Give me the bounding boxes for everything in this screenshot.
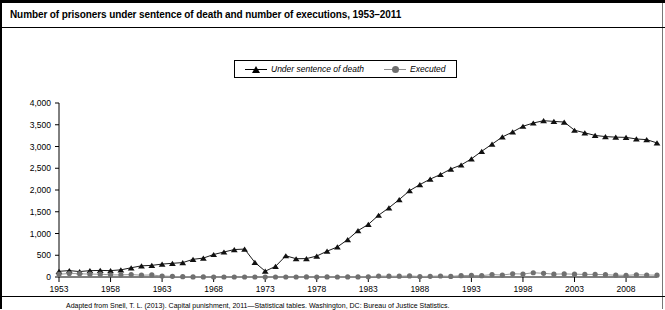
x-axis-tick-label: 1953 [50, 284, 69, 294]
data-point-marker [654, 273, 659, 278]
x-axis-ticks: 1953195819631968197319781983198819931998… [50, 277, 636, 294]
x-axis-tick-label: 1958 [101, 284, 120, 294]
data-point-marker [313, 253, 320, 258]
footnote-text: Adapted from Snell, T. L. (2013). Capita… [2, 301, 665, 310]
data-point-marker [562, 271, 567, 276]
data-point-marker [582, 272, 587, 277]
data-point-marker [644, 272, 649, 277]
data-point-marker [551, 272, 556, 277]
data-point-marker [613, 273, 618, 278]
data-point-marker [56, 272, 61, 277]
y-axis-tick-label: 2,000 [30, 185, 52, 195]
data-point-marker [210, 252, 217, 257]
data-point-marker [304, 274, 309, 279]
x-axis-tick-label: 2008 [617, 284, 636, 294]
axes [59, 103, 657, 277]
data-point-marker [98, 272, 103, 277]
data-point-marker [201, 274, 206, 279]
data-point-marker [386, 274, 391, 279]
data-point-marker [190, 274, 195, 279]
x-axis-tick-label: 1968 [204, 284, 223, 294]
data-point-marker [541, 271, 546, 276]
data-point-marker [251, 260, 258, 265]
data-point-marker [242, 274, 247, 279]
data-point-marker [376, 273, 381, 278]
x-axis-tick-label: 1983 [359, 284, 378, 294]
data-point-marker [180, 274, 185, 279]
data-point-marker [324, 274, 329, 279]
y-axis-tick-label: 0 [46, 272, 51, 282]
data-point-marker [428, 274, 433, 279]
data-point-marker [469, 273, 474, 278]
data-point-marker [314, 274, 319, 279]
data-point-marker [211, 274, 216, 279]
data-point-marker [479, 273, 484, 278]
data-point-marker [282, 253, 289, 258]
data-point-marker [530, 120, 537, 125]
data-point-marker [459, 273, 464, 278]
data-point-marker [232, 274, 237, 279]
x-axis-tick-label: 1963 [153, 284, 172, 294]
data-point-marker [417, 274, 422, 279]
data-point-marker [520, 271, 525, 276]
x-axis-tick-label: 1988 [410, 284, 429, 294]
data-point-marker [252, 274, 257, 279]
data-point-marker [87, 272, 92, 277]
data-point-marker [407, 273, 412, 278]
data-point-marker [366, 274, 371, 279]
data-point-marker [221, 274, 226, 279]
y-axis-tick-label: 3,500 [30, 120, 52, 130]
bottom-rule [2, 296, 665, 297]
x-axis-tick-label: 1973 [256, 284, 275, 294]
data-point-marker [324, 249, 331, 254]
data-point-marker [67, 271, 72, 276]
data-point-marker [572, 272, 577, 277]
x-axis-tick-label: 1978 [307, 284, 326, 294]
y-axis-ticks: 05001,0001,5002,0002,5003,0003,5004,000 [30, 98, 59, 282]
data-point-marker [77, 271, 82, 276]
data-point-marker [294, 274, 299, 279]
data-point-marker [221, 249, 228, 254]
data-point-marker [283, 274, 288, 279]
y-axis-tick-label: 3,000 [30, 142, 52, 152]
data-point-marker [438, 273, 443, 278]
y-axis-tick-label: 500 [37, 250, 51, 260]
data-point-marker [427, 177, 434, 182]
y-axis-tick-label: 4,000 [30, 98, 52, 108]
data-point-marker [273, 274, 278, 279]
plot-area: 05001,0001,5002,0002,5003,0003,5004,000 … [2, 0, 665, 309]
data-point-marker [149, 272, 154, 277]
data-point-marker [355, 274, 360, 279]
x-axis-tick-label: 1998 [514, 284, 533, 294]
data-point-marker [623, 273, 628, 278]
data-point-marker [447, 166, 454, 171]
data-point-marker [581, 130, 588, 135]
data-point-marker [489, 272, 494, 277]
data-point-marker [531, 270, 536, 275]
data-point-marker [129, 272, 134, 277]
data-point-marker [160, 273, 165, 278]
data-series [56, 118, 661, 279]
x-axis-tick-label: 2003 [565, 284, 584, 294]
data-point-marker [139, 273, 144, 278]
data-point-marker [500, 272, 505, 277]
data-point-marker [108, 272, 113, 277]
footnote: Adapted from Snell, T. L. (2013). Capita… [2, 301, 665, 310]
x-axis-tick-label: 1993 [462, 284, 481, 294]
y-axis-tick-label: 1,500 [30, 207, 52, 217]
data-point-marker [335, 274, 340, 279]
data-point-marker [345, 274, 350, 279]
y-axis-tick-label: 1,000 [30, 229, 52, 239]
data-point-marker [654, 140, 661, 145]
data-point-marker [448, 274, 453, 279]
y-axis-tick-label: 2,500 [30, 163, 52, 173]
data-point-marker [118, 272, 123, 277]
data-point-marker [520, 124, 527, 129]
data-point-marker [397, 274, 402, 279]
chart-canvas: 05001,0001,5002,0002,5003,0003,5004,000 … [2, 0, 665, 309]
data-point-marker [603, 272, 608, 277]
data-point-marker [263, 274, 268, 279]
data-point-marker [634, 272, 639, 277]
data-point-marker [593, 272, 598, 277]
